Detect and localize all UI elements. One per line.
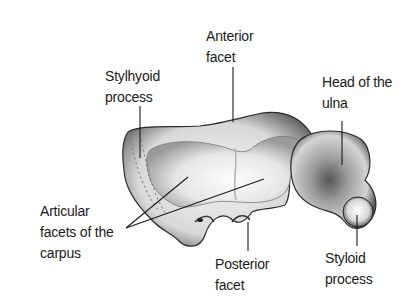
ulna-head	[291, 131, 376, 228]
label-line: Anterior	[206, 26, 253, 47]
label-line: ulna	[322, 93, 392, 114]
label-line: carpus	[40, 243, 114, 264]
label-line: process	[325, 269, 373, 290]
label-head-of-ulna: Head of the ulna	[322, 72, 392, 114]
label-posterior-facet: Posterior facet	[215, 254, 269, 296]
label-line: Posterior	[215, 254, 269, 275]
label-line: facet	[215, 275, 269, 296]
label-line: facets of the	[40, 222, 114, 243]
label-line: Styloid	[325, 248, 373, 269]
label-line: Articular	[40, 201, 114, 222]
label-line: facet	[206, 47, 253, 68]
label-styloid-process: Styloid process	[325, 248, 373, 290]
label-line: Stylhyoid	[105, 66, 160, 87]
label-articular-facets: Articular facets of the carpus	[40, 201, 114, 264]
label-anterior-facet: Anterior facet	[206, 26, 253, 68]
anatomy-diagram: Anterior facet Stylhyoid process Head of…	[0, 0, 405, 301]
label-line: Head of the	[322, 72, 392, 93]
label-stylhyoid-process: Stylhyoid process	[105, 66, 160, 108]
label-line: process	[105, 87, 160, 108]
radius-distal-end	[123, 112, 312, 246]
